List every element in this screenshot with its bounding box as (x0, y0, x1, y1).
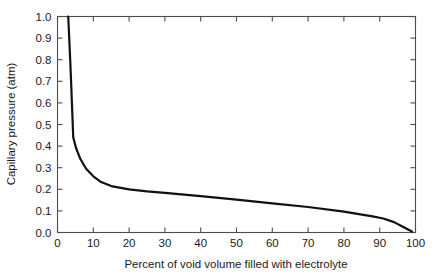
y-tick-label-0-4: 0.4 (36, 140, 53, 152)
x-tick-label-0: 0 (54, 237, 60, 249)
x-tick-label-80: 80 (338, 237, 351, 249)
y-tick-label-0: 0.0 (36, 227, 52, 239)
x-tick-label-20: 20 (123, 237, 136, 249)
capillary-pressure-chart: 0102030405060708090100 0.00.10.20.30.40.… (0, 0, 438, 276)
x-tick-label-10: 10 (87, 237, 100, 249)
x-tick-label-60: 60 (266, 237, 279, 249)
y-tick-label-0-5: 0.5 (36, 119, 52, 131)
y-tick-label-0-1: 0.1 (36, 205, 52, 217)
y-tick-label-1: 1.0 (36, 11, 52, 23)
y-tick-label-0-6: 0.6 (36, 97, 52, 109)
figure-container: 0102030405060708090100 0.00.10.20.30.40.… (0, 0, 438, 276)
x-tick-label-40: 40 (194, 237, 207, 249)
x-tick-label-100: 100 (406, 237, 425, 249)
y-tick-label-0-9: 0.9 (36, 32, 52, 44)
y-tick-label-0-7: 0.7 (36, 75, 52, 87)
x-axis-title: Percent of void volume filled with elect… (124, 258, 347, 270)
x-tick-label-70: 70 (302, 237, 315, 249)
chart-background (0, 0, 438, 276)
y-tick-label-0-3: 0.3 (36, 162, 52, 174)
x-tick-label-30: 30 (159, 237, 172, 249)
x-tick-label-90: 90 (373, 237, 386, 249)
y-tick-label-0-8: 0.8 (36, 54, 52, 66)
x-tick-label-50: 50 (230, 237, 243, 249)
y-tick-label-0-2: 0.2 (36, 183, 52, 195)
y-axis-title: Capillary pressure (atm) (5, 62, 17, 185)
